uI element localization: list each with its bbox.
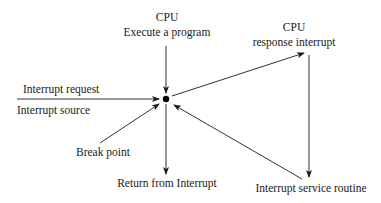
interrupt-source-label: Interrupt source (17, 104, 90, 117)
center-node-dot (163, 96, 169, 102)
cpu-response-subtitle: response interrupt (253, 36, 336, 49)
interrupt-request-label: Interrupt request (23, 83, 99, 96)
cpu-execute-subtitle: Execute a program (124, 26, 211, 39)
cpu-response-title: CPU (283, 21, 305, 34)
interrupt-service-routine-label: Interrupt service routine (255, 182, 366, 195)
cpu-execute-title: CPU (156, 11, 178, 24)
interrupt-diagram: CPU Execute a program CPU response inter… (0, 0, 381, 203)
break-point-label: Break point (76, 146, 130, 159)
arrow-center-to-response (172, 53, 304, 96)
arrow-breakpoint-to-center (100, 104, 159, 143)
return-from-interrupt-label: Return from Interrupt (117, 177, 217, 190)
arrow-isr-to-center (174, 105, 302, 179)
